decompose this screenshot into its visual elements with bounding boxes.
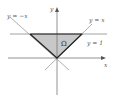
label-x-axis: x: [104, 61, 108, 68]
label-omega: Ω: [61, 40, 67, 48]
label-y-neg-x: y = −x: [6, 12, 28, 20]
x-axis-arrow-icon: [101, 56, 106, 60]
y-axis-arrow-icon: [55, 7, 59, 12]
label-y-1: y = 1: [86, 39, 103, 47]
label-y-x: y = x: [88, 16, 105, 24]
region-omega: [30, 34, 82, 58]
region-diagram: y = −x y = x y = 1 Ω x y: [0, 0, 127, 98]
label-y-axis: y: [49, 5, 54, 13]
